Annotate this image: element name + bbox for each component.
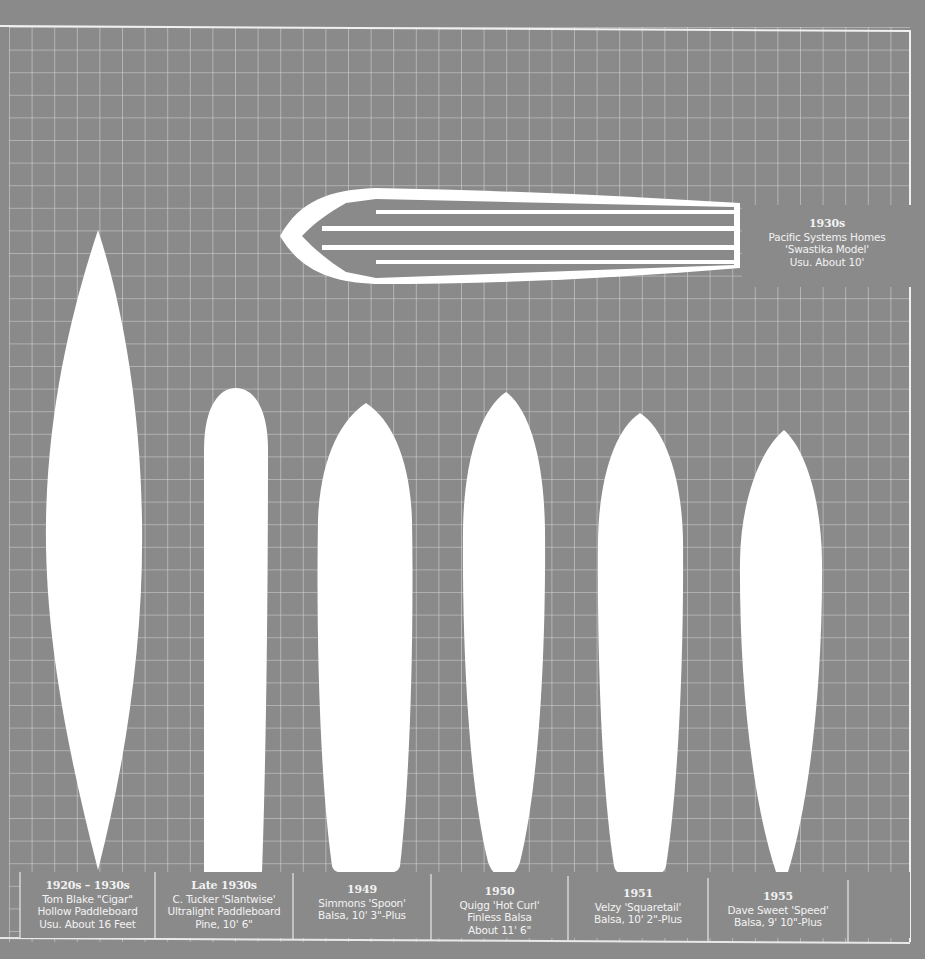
- caption-line: About 11' 6": [431, 924, 568, 937]
- caption-era: 1920s – 1930s: [20, 880, 155, 893]
- caption-line: Tom Blake "Cigar": [20, 893, 155, 906]
- swastika-model-board: [280, 188, 740, 284]
- caption-cigar: 1920s – 1930s Tom Blake "Cigar" Hollow P…: [20, 880, 155, 930]
- caption-line: Velzy 'Squaretail': [568, 901, 708, 914]
- caption-line: Balsa, 10' 2"-Plus: [568, 913, 708, 926]
- caption-line: Pine, 10' 6": [155, 918, 293, 931]
- caption-line: Simmons 'Spoon': [293, 897, 431, 910]
- caption-line: Usu. About 16 Feet: [20, 918, 155, 931]
- caption-era: 1951: [568, 888, 708, 901]
- caption-slantwise: Late 1930s C. Tucker 'Slantwise' Ultrali…: [155, 880, 293, 930]
- caption-era: 1949: [293, 884, 431, 897]
- caption-era: Late 1930s: [155, 880, 293, 893]
- caption-spoon: 1949 Simmons 'Spoon' Balsa, 10' 3"-Plus: [293, 884, 431, 922]
- caption-line: Balsa, 9' 10"-Plus: [708, 916, 848, 929]
- surfboard-diagram: [0, 0, 925, 959]
- caption-line: Hollow Paddleboard: [20, 905, 155, 918]
- board-slantwise: [204, 388, 268, 872]
- caption-line: C. Tucker 'Slantwise': [155, 893, 293, 906]
- caption-squaretail: 1951 Velzy 'Squaretail' Balsa, 10' 2"-Pl…: [568, 888, 708, 926]
- caption-era: 1950: [431, 886, 568, 899]
- caption-line: Quigg 'Hot Curl': [431, 899, 568, 912]
- featured-board-model: 'Swastika Model': [742, 243, 912, 256]
- caption-line: Dave Sweet 'Speed': [708, 904, 848, 917]
- caption-hot-curl: 1950 Quigg 'Hot Curl' Finless Balsa Abou…: [431, 886, 568, 936]
- caption-line: Ultralight Paddleboard: [155, 905, 293, 918]
- caption-line: Finless Balsa: [431, 911, 568, 924]
- caption-era: 1955: [708, 891, 848, 904]
- featured-board-era: 1930s: [742, 218, 912, 231]
- caption-speed: 1955 Dave Sweet 'Speed' Balsa, 9' 10"-Pl…: [708, 891, 848, 929]
- featured-board-caption: 1930s Pacific Systems Homes 'Swastika Mo…: [742, 218, 912, 268]
- featured-board-size: Usu. About 10': [742, 256, 912, 269]
- board-spoon: [318, 403, 413, 874]
- board-squaretail: [598, 413, 683, 877]
- featured-board-maker: Pacific Systems Homes: [742, 231, 912, 244]
- caption-line: Balsa, 10' 3"-Plus: [293, 909, 431, 922]
